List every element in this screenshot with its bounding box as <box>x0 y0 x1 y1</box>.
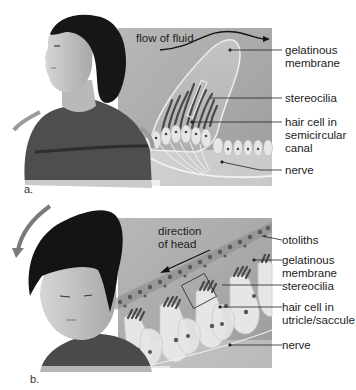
gelatinous-membrane-label-b-1: gelatinous <box>282 254 334 267</box>
direction-of-head-label-1: direction <box>158 225 201 238</box>
hair-cell-label-a-2: semicircular <box>285 129 346 142</box>
panel-b-letter: b. <box>30 373 39 385</box>
nerve-label-b: nerve <box>282 339 311 352</box>
flow-of-fluid-label: flow of fluid <box>136 32 194 45</box>
direction-of-head-label-2: of head <box>158 238 196 251</box>
gelatinous-membrane-label-a-1: gelatinous <box>285 44 337 57</box>
nerve-label-a: nerve <box>285 164 314 177</box>
hair-cell-label-b-2: utricle/saccule <box>282 314 355 327</box>
hair-cell-label-a-3: canal <box>285 142 313 155</box>
gelatinous-membrane-label-a-2: membrane <box>285 57 340 70</box>
panel-a-letter: a. <box>24 183 33 195</box>
hair-cell-label-b-1: hair cell in <box>282 301 334 314</box>
otoliths-label: otoliths <box>282 234 318 247</box>
stereocilia-label-b: stereocilia <box>282 280 334 293</box>
stereocilia-label-a: stereocilia <box>285 92 337 105</box>
gelatinous-membrane-label-b-2: membrane <box>282 267 337 280</box>
hair-cell-label-a-1: hair cell in <box>285 116 337 129</box>
